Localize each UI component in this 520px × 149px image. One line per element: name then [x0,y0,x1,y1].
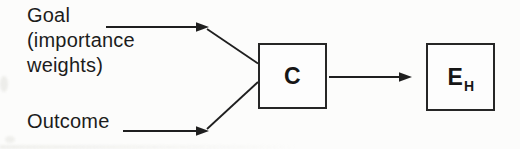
scan-artifact [0,76,8,92]
outcome-label: Outcome [27,109,110,134]
goal-to-c-arrowhead [196,22,209,32]
node-eh: EH [426,43,495,111]
scan-artifact [0,145,300,149]
c-to-eh-arrowhead [399,72,412,82]
node-eh-label: EH [447,64,473,91]
outcome-to-c-arrowhead [196,126,209,136]
node-c: C [258,43,327,109]
outcome-to-c-arrow-diagonal [207,82,258,129]
goal-to-c-arrow-diagonal [207,29,258,64]
goal-label: Goal (importance weights) [27,3,135,78]
diagram-canvas: Goal (importance weights) Outcome C EH [0,0,520,149]
node-c-label: C [284,63,301,90]
node-eh-label-subscript: H [464,78,474,94]
scan-artifact [5,136,15,143]
node-eh-label-main: E [447,64,463,90]
